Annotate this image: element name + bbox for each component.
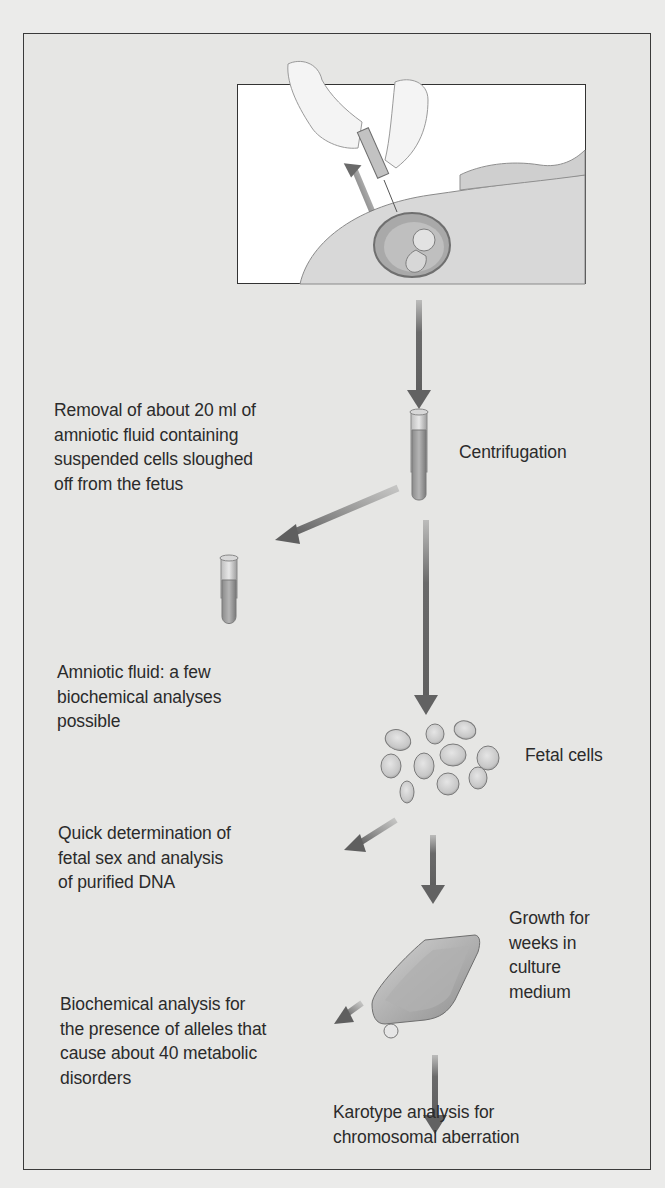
fetus-head: [413, 229, 435, 251]
left-hand: [288, 61, 362, 148]
quick-determination-label: Quick determination of fetal sex and ana…: [58, 821, 231, 895]
arrow-to-biochemical-analysis: [334, 1003, 362, 1024]
biochemical-analysis-label: Biochemical analysis for the presence of…: [60, 992, 266, 1090]
arrow-to-amniotic-fluid: [275, 488, 398, 544]
withdrawal-arrow: [344, 158, 372, 211]
right-hand: [385, 80, 428, 168]
fetal-cells-label: Fetal cells: [525, 743, 603, 768]
arrow-to-culture: [421, 835, 445, 904]
removal-label: Removal of about 20 ml of amniotic fluid…: [54, 398, 256, 496]
arrow-to-quick-determination: [344, 820, 396, 852]
culture-flask-icon: [372, 935, 480, 1038]
test-tube-icon: [410, 409, 428, 500]
test-tube-icon: [220, 555, 238, 624]
arrow-to-centrifugation: [407, 300, 431, 409]
amniotic-fluid-label: Amniotic fluid: a few biochemical analys…: [57, 660, 221, 734]
karyotype-label: Karotype analysis for chromosomal aberra…: [333, 1100, 520, 1149]
fetal-cells-icon: [381, 718, 499, 803]
growth-label: Growth for weeks in culture medium: [509, 906, 590, 1004]
syringe-abdomen-illustration: [288, 61, 585, 284]
arrow-to-fetal-cells: [414, 520, 438, 715]
centrifugation-label: Centrifugation: [459, 440, 567, 465]
